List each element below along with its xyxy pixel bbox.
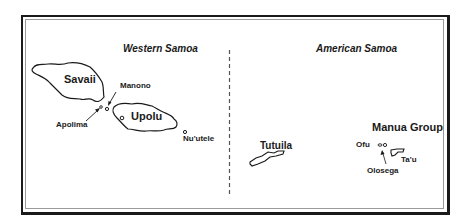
olosega-island-shape: [383, 143, 386, 146]
island-label-nuutele: Nu'utele: [183, 134, 214, 143]
island-label-tau: Ta'u: [401, 155, 417, 164]
group-label-manua: Manua Group: [372, 121, 443, 133]
island-label-apolima: Apolima: [56, 120, 88, 129]
tutuila-island-shape: [250, 151, 284, 166]
region-label-western-samoa: Western Samoa: [123, 43, 198, 54]
island-label-olosega: Olosega: [367, 166, 399, 175]
upolu-coast-nub: [120, 116, 124, 120]
island-label-upolu: Upolu: [131, 110, 162, 122]
manono-arrowhead: [108, 101, 112, 106]
island-label-tutuila: Tutuila: [260, 140, 292, 151]
island-label-ofu: Ofu: [356, 140, 370, 149]
island-label-savaii: Savaii: [64, 73, 96, 85]
ofu-island-shape: [378, 144, 382, 146]
region-label-american-samoa: American Samoa: [316, 43, 397, 54]
apolima-island-dot: [100, 106, 103, 109]
olosega-arrowhead: [381, 150, 385, 155]
manono-island-dot: [105, 107, 108, 110]
island-label-manono: Manono: [120, 81, 151, 90]
samoa-map: [0, 0, 467, 224]
